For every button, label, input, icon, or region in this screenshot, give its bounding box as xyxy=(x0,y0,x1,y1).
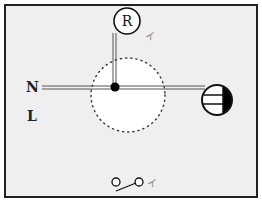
receptacle-symbol: R xyxy=(114,8,140,34)
switch-mark: イ xyxy=(147,178,157,189)
wiring-diagram: R イ N L イ xyxy=(0,0,262,204)
receptacle-mark: イ xyxy=(145,31,155,42)
receptacle-label: R xyxy=(122,13,133,29)
live-label: L xyxy=(27,108,37,124)
neutral-label: N xyxy=(26,79,39,95)
junction-dot xyxy=(111,83,120,92)
junction-box-circle xyxy=(91,58,165,132)
